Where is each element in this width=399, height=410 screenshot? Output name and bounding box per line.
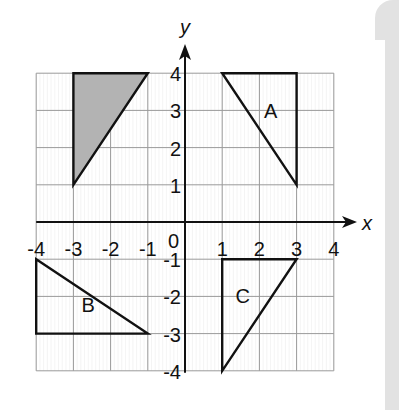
y-tick-label: 2 bbox=[170, 138, 181, 160]
y-tick-label: 1 bbox=[170, 175, 181, 197]
x-tick-label: 4 bbox=[328, 238, 339, 260]
y-tick-label: -4 bbox=[163, 361, 181, 383]
y-tick-label: -2 bbox=[163, 286, 181, 308]
triangle-b-label: B bbox=[82, 294, 95, 316]
x-tick-label: -4 bbox=[27, 238, 45, 260]
triangle-a-label: A bbox=[264, 100, 278, 122]
triangle-c-label: C bbox=[235, 285, 249, 307]
y-tick-label: -3 bbox=[163, 324, 181, 346]
x-tick-label: -1 bbox=[139, 238, 157, 260]
x-tick-label: -3 bbox=[65, 238, 83, 260]
x-axis-label: x bbox=[361, 212, 373, 234]
y-tick-label: 3 bbox=[170, 100, 181, 122]
x-tick-label: -2 bbox=[102, 238, 120, 260]
x-tick-label: 1 bbox=[217, 238, 228, 260]
x-tick-label: 2 bbox=[254, 238, 265, 260]
y-tick-label: -1 bbox=[163, 249, 181, 271]
x-tick-label: 3 bbox=[291, 238, 302, 260]
y-tick-label: 4 bbox=[170, 63, 181, 85]
coordinate-grid: xy0-4-3-2-112344321-1-2-3-4ABC bbox=[0, 0, 399, 410]
y-axis-label: y bbox=[178, 16, 191, 38]
